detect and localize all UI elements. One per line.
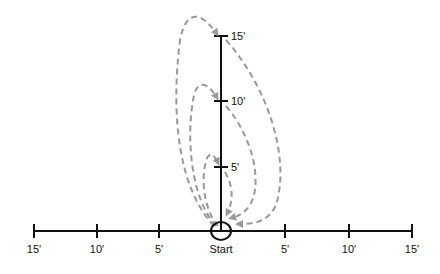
vertical-axis [214,36,228,231]
label-start: Start [209,243,232,255]
label-right-10: 10' [342,243,356,255]
path-from-5ft [225,172,232,214]
label-right-5: 5' [281,243,289,255]
label-left-5: 5' [155,243,163,255]
horizontal-axis [34,224,412,238]
path-to-15ft [176,17,217,226]
dashed-paths [176,17,280,226]
label-right-15: 15' [405,243,419,255]
path-from-15ft [226,40,280,224]
distance-diagram: 15' 10' 5' Start 5' 10' 15' 5' 10' 15' [0,0,440,274]
diagram-canvas: 15' 10' 5' Start 5' 10' 15' 5' 10' 15' [0,0,440,274]
label-left-10: 10' [90,243,104,255]
label-up-10: 10' [231,95,245,107]
label-up-5: 5' [231,161,239,173]
label-up-15: 15' [231,30,245,42]
path-to-10ft [190,85,217,226]
label-left-15: 15' [27,243,41,255]
